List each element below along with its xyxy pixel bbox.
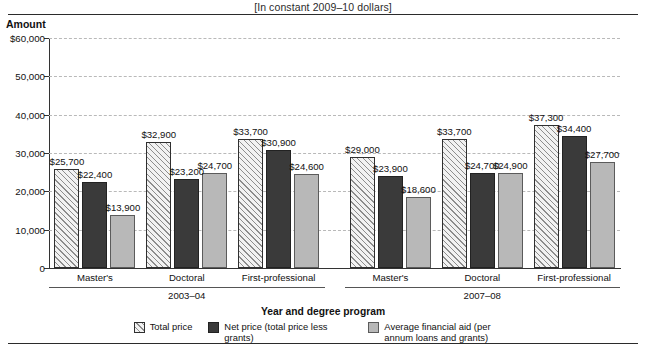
category-label: Master's	[77, 272, 113, 283]
bar-net	[266, 150, 291, 268]
bar-total	[146, 142, 171, 268]
y-axis-tick-label: 50,000	[15, 71, 45, 82]
group-label: 2003–04	[168, 290, 205, 301]
y-axis-tick-label: 30,000	[15, 148, 45, 159]
bar-net	[470, 173, 495, 268]
legend-swatch-icon	[368, 322, 379, 333]
x-axis-title: Year and degree program	[0, 306, 646, 317]
bar-net	[562, 136, 587, 268]
bar-value-label: $24,600	[289, 161, 324, 172]
chart-legend: Total priceNet price (total price less g…	[0, 321, 646, 343]
bar-value-label: $37,300	[529, 112, 564, 123]
top-divider	[8, 14, 638, 15]
bar-value-label: $33,700	[437, 126, 472, 137]
legend-label: Average financial aid (per annum loans a…	[384, 321, 512, 343]
legend-item-net: Net price (total price less grants)	[208, 321, 352, 343]
y-axis-title: Amount	[6, 18, 46, 30]
bar-net	[174, 179, 199, 268]
group-label: 2007–08	[464, 290, 501, 301]
bar-aid	[498, 173, 523, 268]
y-axis-tick-label: 0	[40, 263, 45, 274]
bar-value-label: $13,900	[106, 202, 141, 213]
gridline	[49, 76, 620, 77]
group-bracket	[49, 287, 325, 288]
category-label: Master's	[372, 272, 408, 283]
bar-total	[350, 157, 375, 268]
legend-swatch-icon	[208, 322, 219, 333]
bar-value-label: $27,700	[585, 149, 620, 160]
y-axis-tick-label: $60,000	[10, 33, 45, 44]
category-label: Doctoral	[169, 272, 205, 283]
gridline	[49, 38, 620, 39]
bar-value-label: $22,400	[78, 169, 113, 180]
bar-total	[54, 169, 79, 268]
bar-value-label: $30,900	[261, 137, 296, 148]
bar-value-label: $32,900	[141, 129, 176, 140]
category-label: First-professional	[242, 272, 316, 283]
chart-subtitle: [In constant 2009–10 dollars]	[0, 1, 646, 13]
x-axis-line	[49, 268, 621, 269]
bar-net	[82, 182, 107, 268]
legend-swatch-icon	[134, 322, 145, 333]
bar-aid	[406, 197, 431, 268]
bar-value-label: $29,000	[345, 144, 380, 155]
category-label: Doctoral	[464, 272, 500, 283]
bar-aid	[202, 173, 227, 268]
bar-total	[238, 139, 263, 268]
bar-value-label: $34,400	[557, 123, 592, 134]
bar-value-label: $23,900	[373, 163, 408, 174]
chart-figure: [In constant 2009–10 dollars] Amount Mas…	[0, 0, 646, 351]
bar-total	[534, 125, 559, 268]
bar-aid	[590, 162, 615, 268]
legend-label: Net price (total price less grants)	[224, 321, 352, 343]
bar-aid	[110, 215, 135, 268]
y-axis-tick-label: 10,000	[15, 224, 45, 235]
bar-value-label: $24,700	[197, 160, 232, 171]
bar-aid	[294, 174, 319, 268]
bar-total	[442, 139, 467, 268]
bar-value-label: $24,900	[493, 160, 528, 171]
category-label: First-professional	[537, 272, 611, 283]
bar-net	[378, 176, 403, 268]
bar-value-label: $18,600	[401, 184, 436, 195]
bottom-divider	[8, 343, 638, 344]
group-bracket	[345, 287, 621, 288]
bar-value-label: $33,700	[233, 126, 268, 137]
legend-label: Total price	[150, 321, 193, 332]
legend-item-total: Total price	[134, 321, 193, 333]
plot-area	[49, 38, 620, 268]
bar-value-label: $25,700	[50, 156, 85, 167]
legend-item-aid: Average financial aid (per annum loans a…	[368, 321, 512, 343]
y-axis-tick-label: 20,000	[15, 186, 45, 197]
y-axis-tick-label: 40,000	[15, 109, 45, 120]
